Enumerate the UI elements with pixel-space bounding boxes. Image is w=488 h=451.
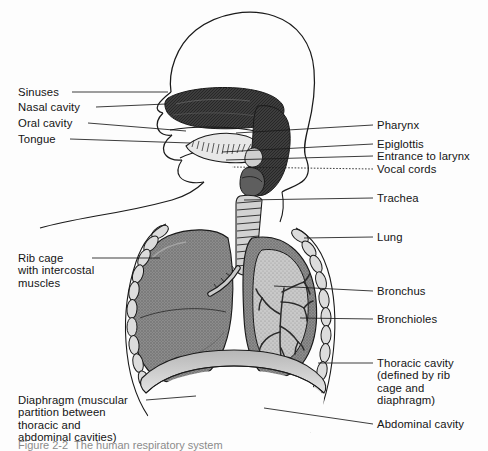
label-bronchioles: Bronchioles [377, 313, 437, 325]
leader-oral-cavity [88, 123, 186, 131]
label-pharynx: Pharynx [377, 119, 419, 131]
respiratory-system-figure: Sinuses Nasal cavity Oral cavity Tongue … [0, 0, 488, 451]
label-vocal-cords: Vocal cords [377, 163, 437, 175]
label-thoracic-cavity: Thoracic cavity (defined by rib cage and… [377, 357, 454, 407]
label-bronchus: Bronchus [377, 285, 426, 297]
label-rib-cage: Rib cage with intercostal muscles [18, 252, 94, 289]
label-lung: Lung [377, 231, 403, 243]
label-epiglottis: Epiglottis [377, 138, 424, 150]
label-nasal-cavity: Nasal cavity [18, 101, 80, 113]
larynx [240, 167, 265, 196]
label-entrance-to-larynx: Entrance to larynx [377, 150, 470, 162]
label-oral-cavity: Oral cavity [18, 117, 72, 129]
leader-lung [304, 237, 373, 238]
leader-trachea [244, 198, 373, 200]
label-abdominal-cavity: Abdominal cavity [377, 418, 464, 430]
label-tongue: Tongue [18, 133, 56, 145]
label-sinuses: Sinuses [18, 86, 59, 98]
leader-nasal-cavity [96, 104, 166, 107]
figure-caption: Figure 2-2 The human respiratory system [18, 439, 223, 451]
label-trachea: Trachea [377, 192, 419, 204]
label-diaphragm: Diaphragm (muscular partition between th… [18, 394, 128, 444]
leader-tongue [70, 139, 190, 143]
